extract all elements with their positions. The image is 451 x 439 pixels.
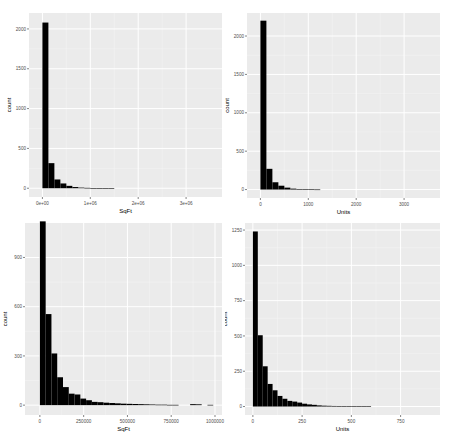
x-tick-label: 0 [252, 419, 255, 424]
histogram-bar [108, 188, 114, 189]
histogram-bar [84, 188, 90, 189]
histogram-bar [296, 189, 302, 190]
histogram-bar [278, 186, 284, 190]
histogram-bar [260, 21, 266, 190]
histogram-bar [90, 188, 96, 189]
histogram-bar [63, 387, 69, 405]
y-tick-label: 1500 [16, 66, 27, 71]
histogram-bar [132, 404, 138, 405]
x-axis-title: SqFt [119, 208, 132, 214]
x-tick-label: 0 [259, 202, 262, 207]
histogram-bar [51, 353, 57, 405]
histogram-bar [273, 390, 278, 406]
histogram-bar [284, 188, 290, 190]
histogram-panel-top-right: 0100020003000Units0500100015002000count [225, 0, 451, 224]
histogram-bar [150, 404, 156, 405]
histogram-bar [121, 404, 127, 405]
y-axis-title: count [2, 311, 8, 326]
histogram-bar [302, 404, 307, 407]
histogram-bar [46, 314, 52, 405]
x-tick-label: 0 [39, 419, 42, 424]
y-tick-label: 1000 [234, 110, 245, 115]
y-tick-label: 500 [18, 146, 26, 151]
histogram-bar [190, 404, 196, 405]
y-tick-label: 2000 [234, 34, 245, 39]
histogram-panel-top-left: 0e+001e+062e+063e+06SqFt0500100015002000… [0, 0, 225, 224]
histogram-bar [173, 405, 179, 406]
histogram-bar [98, 402, 104, 405]
histogram-bar [322, 406, 327, 407]
y-axis: 0300600900count [2, 255, 25, 408]
y-axis-title: count [225, 98, 230, 113]
histogram-bar [138, 404, 144, 405]
histogram-bar [266, 169, 272, 190]
y-axis: 0500100015002000count [6, 27, 29, 191]
y-tick-label: 900 [14, 255, 22, 260]
histogram-bar [78, 188, 84, 189]
y-tick-label: 300 [14, 354, 22, 359]
histogram-bar [317, 405, 322, 406]
histogram-bar [282, 399, 287, 407]
x-tick-label: 250000 [76, 419, 92, 424]
y-tick-label: 2000 [16, 27, 27, 32]
histogram-panel-bottom-left: 02500005000007500001000000SqFt0300600900… [0, 219, 225, 439]
histogram-bar [302, 189, 308, 190]
x-tick-label: 0e+00 [36, 201, 49, 206]
histogram-bar [80, 399, 86, 406]
x-axis-title: Units [337, 209, 351, 215]
x-tick-label: 250 [298, 419, 306, 424]
histogram-bar [332, 406, 337, 407]
histogram-bar [57, 377, 63, 405]
y-axis-title: count [225, 311, 228, 326]
y-tick-label: 750 [234, 298, 242, 303]
histogram-bar [127, 404, 133, 405]
histogram-bar [278, 396, 283, 407]
histogram-bar [308, 189, 314, 190]
x-tick-label: 1000 [303, 202, 314, 207]
histogram-bar [346, 406, 351, 407]
histogram-bar [356, 406, 361, 407]
x-tick-label: 2e+06 [132, 201, 145, 206]
x-tick-label: 500000 [120, 419, 136, 424]
histogram-bar [290, 189, 296, 190]
histogram-bar [75, 394, 81, 405]
histogram-bar [144, 404, 150, 405]
histogram-bar [66, 186, 72, 188]
x-tick-label: 3000 [399, 202, 410, 207]
histogram-bar [337, 406, 342, 407]
x-tick-label: 3e+06 [180, 201, 193, 206]
x-axis: 0250500750Units [252, 415, 405, 432]
histogram-bar [351, 406, 356, 407]
x-tick-label: 1e+06 [84, 201, 97, 206]
histogram-bar [253, 231, 258, 406]
histogram-bar [196, 404, 202, 405]
histogram-bar [92, 402, 98, 405]
x-tick-label: 500 [348, 419, 356, 424]
histogram-bar [297, 403, 302, 407]
histogram-bar [96, 188, 102, 189]
histogram-bar [287, 401, 292, 407]
y-axis: 0500100015002000count [225, 34, 247, 193]
histogram-bar [103, 403, 109, 405]
histogram-bar [263, 366, 268, 406]
histogram-bar [40, 221, 46, 405]
y-tick-label: 0 [239, 404, 242, 409]
histogram-bar [86, 400, 92, 405]
y-tick-label: 250 [234, 369, 242, 374]
histogram-bar [60, 183, 66, 188]
x-axis: 0100020003000Units [259, 198, 410, 215]
histogram-bar [115, 403, 121, 405]
histogram-bar [207, 405, 213, 406]
histogram-bar [361, 406, 366, 407]
x-tick-label: 750 [397, 419, 405, 424]
y-tick-label: 1250 [232, 228, 243, 233]
histogram-bar [268, 384, 273, 407]
histogram-bar [102, 188, 108, 189]
histogram-bar [307, 404, 312, 406]
histogram-bar [292, 402, 297, 407]
histogram-bar [342, 406, 347, 407]
y-tick-label: 1500 [234, 72, 245, 77]
histogram-bar [109, 403, 115, 405]
x-axis-title: Units [336, 426, 350, 432]
y-axis: 025050075010001250count [225, 228, 245, 409]
